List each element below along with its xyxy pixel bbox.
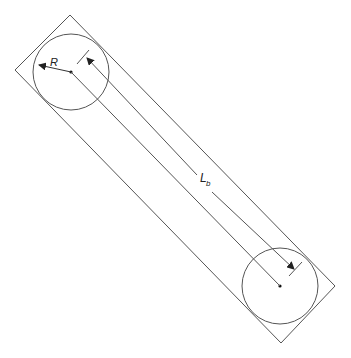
svg-text:b: b	[206, 179, 211, 188]
bottom-extension-tick	[289, 262, 302, 276]
diagram-canvas: R L b	[0, 0, 351, 358]
top-extension-tick	[77, 50, 89, 64]
length-dimension-upper	[87, 58, 197, 175]
radius-label: R	[50, 56, 58, 68]
length-dimension-lower	[212, 192, 294, 269]
length-label: L b	[200, 171, 211, 188]
center-line	[71, 72, 280, 286]
